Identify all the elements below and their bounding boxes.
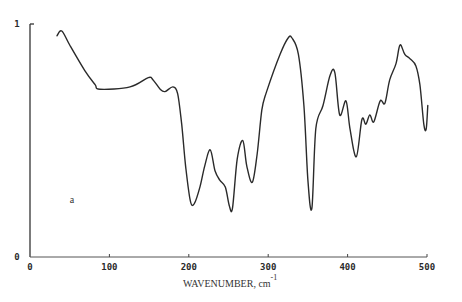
y-tick-label: 1 [14,19,19,29]
x-tick-label: 100 [101,262,117,272]
spectrum-chart: 0100200300400500 01 a WAVENUMBER, cm-1 [0,0,462,302]
y-tick-label: 0 [14,252,19,262]
series-annotation-a: a [70,194,75,205]
x-tick-label: 400 [339,262,355,272]
spectrum-line [57,31,428,212]
x-axis-label: WAVENUMBER, cm-1 [183,273,277,289]
x-tick-label: 300 [260,262,276,272]
x-tick-label: 500 [419,262,435,272]
x-tick-label: 200 [181,262,197,272]
y-tick-labels: 01 [14,19,19,262]
x-tick-label: 0 [27,262,32,272]
